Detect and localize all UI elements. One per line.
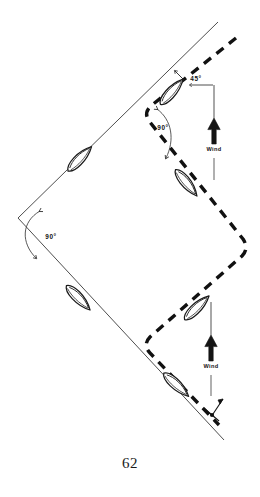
wind-label-upper: Wind	[207, 146, 222, 152]
angle-90-lower-annotation: 90°	[25, 211, 57, 258]
wind-arrow-lower: Wind	[204, 302, 219, 396]
angle-90-upper-annotation: 90°	[157, 109, 171, 158]
boat-2	[64, 143, 95, 174]
angle-label-90-lower: 90°	[45, 233, 56, 240]
wind-label-lower: Wind	[204, 363, 219, 369]
dashed-track	[146, 38, 246, 425]
boat-4	[63, 282, 93, 314]
figure-svg: 45° 90° 90° Wind Wind	[0, 0, 260, 497]
angle-label-45: 45°	[190, 75, 201, 82]
boat-1	[157, 76, 187, 108]
page-number: 62	[0, 455, 260, 472]
wind-arrow-upper: Wind	[207, 85, 222, 180]
sailing-diagram: 45° 90° 90° Wind Wind	[0, 0, 260, 497]
buoy-mark	[205, 399, 223, 421]
boat-6	[161, 369, 192, 400]
boat-3	[172, 166, 201, 199]
angle-label-90-upper: 90°	[157, 124, 168, 131]
